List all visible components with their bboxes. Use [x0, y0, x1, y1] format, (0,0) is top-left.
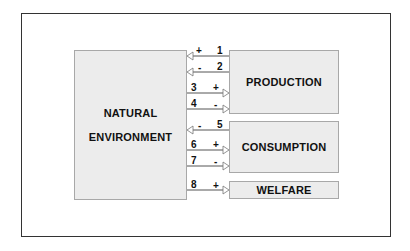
natural-environment-label-line1: NATURAL: [104, 108, 158, 119]
welfare-box: WELFARE: [229, 181, 339, 199]
production-box: PRODUCTION: [229, 50, 339, 114]
welfare-label: WELFARE: [256, 185, 311, 196]
consumption-box: CONSUMPTION: [229, 121, 339, 173]
production-label: PRODUCTION: [246, 77, 322, 88]
natural-environment-label-line2: ENVIRONMENT: [89, 132, 172, 143]
natural-environment-box: NATURAL ENVIRONMENT: [74, 50, 187, 200]
consumption-label: CONSUMPTION: [242, 142, 327, 153]
